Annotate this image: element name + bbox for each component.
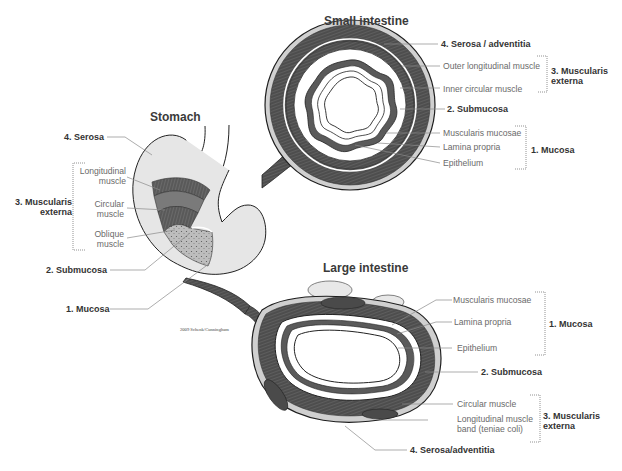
credit-watermark: 2009 Schenk/Cunningham [180, 327, 229, 332]
si-muscularis-line1: 3. Muscularis [551, 66, 608, 76]
large-intestine-title: Large intestine [323, 261, 408, 275]
stomach-muscularis-line2: externa [0, 207, 72, 217]
large-intestine-drawing [183, 278, 441, 422]
stomach-muscularis-line1: 3. Muscularis [0, 197, 72, 207]
li-muscularis-mucosae-label: Muscularis mucosae [453, 295, 531, 305]
li-longitudinal-band-line1: Longitudinal muscle [457, 414, 533, 424]
li-muscularis-label: 3. Muscularis externa [543, 411, 600, 431]
stomach-oblique-line1: Oblique [76, 229, 124, 239]
li-muscularis-line2: externa [543, 421, 600, 431]
li-epithelium-label: Epithelium [457, 343, 497, 353]
small-intestine-drawing [262, 20, 435, 190]
li-longitudinal-band-line2: band (teniae coli) [457, 424, 533, 434]
li-mucosa-label: 1. Mucosa [549, 319, 593, 329]
si-muscularis-label: 3. Muscularis externa [551, 66, 608, 86]
li-longitudinal-band-label: Longitudinal muscle band (teniae coli) [457, 414, 533, 434]
stomach-mucosa-label: 1. Mucosa [66, 304, 110, 314]
stomach-submucosa-label: 2. Submucosa [46, 265, 107, 275]
stomach-muscularis-label: 3. Muscularis externa [0, 197, 72, 217]
stomach-circular-label: Circular muscle [76, 199, 124, 219]
stomach-drawing [133, 125, 266, 274]
stomach-oblique-label: Oblique muscle [76, 229, 124, 249]
si-outer-longitudinal-label: Outer longitudinal muscle [443, 61, 540, 71]
stomach-longitudinal-line2: muscle [76, 176, 126, 186]
li-muscularis-line1: 3. Muscularis [543, 411, 600, 421]
li-submucosa-label: 2. Submucosa [481, 367, 542, 377]
si-muscularis-line2: externa [551, 76, 608, 86]
si-lamina-propria-label: Lamina propria [443, 142, 500, 152]
stomach-circular-line1: Circular [76, 199, 124, 209]
si-muscularis-mucosae-label: Muscularis mucosae [443, 128, 521, 138]
li-circular-muscle-label: Circular muscle [457, 399, 516, 409]
li-lamina-propria-label: Lamina propria [454, 317, 511, 327]
small-intestine-title: Small intestine [324, 14, 409, 28]
li-serosa-label: 4. Serosa/adventitia [410, 445, 495, 455]
si-mucosa-label: 1. Mucosa [531, 145, 575, 155]
si-serosa-label: 4. Serosa / adventitia [441, 39, 531, 49]
stomach-longitudinal-label: Longitudinal muscle [76, 166, 126, 186]
stomach-oblique-line2: muscle [76, 239, 124, 249]
stomach-longitudinal-line1: Longitudinal [76, 166, 126, 176]
si-inner-circular-label: Inner circular muscle [443, 84, 522, 94]
stomach-serosa-label: 4. Serosa [64, 132, 104, 142]
si-epithelium-label: Epithelium [443, 158, 483, 168]
digestive-tract-layers-figure: Stomach 4. Serosa Longitudinal muscle Ci… [0, 0, 622, 471]
si-submucosa-label: 2. Submucosa [447, 104, 508, 114]
stomach-title: Stomach [150, 110, 201, 124]
stomach-circular-line2: muscle [76, 209, 124, 219]
